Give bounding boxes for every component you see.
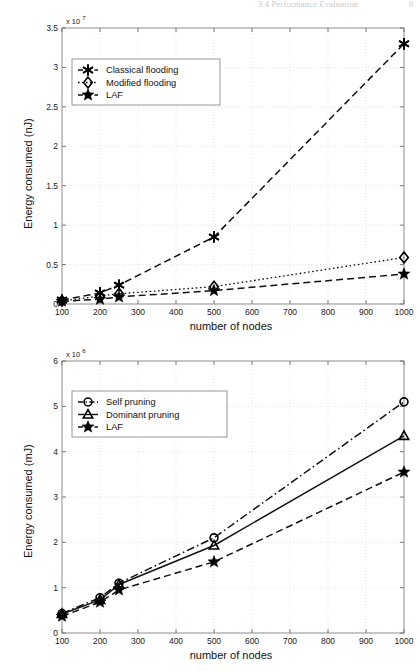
svg-text:Classical flooding: Classical flooding — [106, 65, 178, 75]
svg-text:200: 200 — [93, 307, 107, 317]
figure-energy-flooding: x 10 7 Energy consumed (nJ) number of no… — [0, 14, 420, 336]
svg-text:300: 300 — [131, 307, 145, 317]
svg-text:500: 500 — [207, 307, 221, 317]
svg-text:700: 700 — [283, 307, 297, 317]
svg-text:700: 700 — [283, 636, 297, 646]
svg-text:400: 400 — [169, 307, 183, 317]
svg-text:5: 5 — [53, 401, 58, 411]
svg-text:3: 3 — [53, 62, 58, 72]
svg-text:LAF: LAF — [106, 422, 123, 432]
svg-text:2: 2 — [53, 141, 58, 151]
svg-text:1000: 1000 — [395, 636, 414, 646]
plot-area-top: 100200300400500600700800900100000.511.52… — [0, 14, 420, 336]
svg-text:1.5: 1.5 — [46, 181, 58, 191]
svg-text:600: 600 — [245, 636, 259, 646]
svg-text:Self pruning: Self pruning — [106, 397, 156, 407]
svg-text:500: 500 — [207, 636, 221, 646]
plot-area-bottom: 10020030040050060070080090010000123456Se… — [0, 343, 420, 671]
svg-text:200: 200 — [93, 636, 107, 646]
svg-text:1: 1 — [53, 220, 58, 230]
svg-text:800: 800 — [321, 307, 335, 317]
svg-text:1000: 1000 — [395, 307, 414, 317]
svg-text:600: 600 — [245, 307, 259, 317]
svg-text:2: 2 — [53, 537, 58, 547]
figure-energy-pruning: x 10 6 Energy consumed (mJ) number of no… — [0, 343, 420, 671]
series-markers — [56, 268, 410, 306]
svg-text:1: 1 — [53, 583, 58, 593]
running-head: 3.4 Performance Evaluation — [258, 0, 358, 9]
svg-text:6: 6 — [53, 356, 58, 366]
svg-text:0.5: 0.5 — [46, 260, 58, 270]
svg-text:3.5: 3.5 — [46, 23, 58, 33]
svg-text:900: 900 — [359, 636, 373, 646]
series-markers — [56, 466, 410, 621]
svg-text:800: 800 — [321, 636, 335, 646]
svg-text:LAF: LAF — [106, 90, 123, 100]
svg-text:900: 900 — [359, 307, 373, 317]
svg-text:Modified flooding: Modified flooding — [106, 78, 176, 88]
svg-text:300: 300 — [131, 636, 145, 646]
page-header: 3.4 Performance Evaluation 6 — [0, 0, 420, 12]
svg-text:0: 0 — [53, 628, 58, 638]
svg-text:2.5: 2.5 — [46, 102, 58, 112]
svg-text:400: 400 — [169, 636, 183, 646]
svg-text:3: 3 — [53, 492, 58, 502]
page-number: 6 — [409, 0, 413, 9]
svg-text:Dominant pruning: Dominant pruning — [106, 410, 179, 420]
svg-text:4: 4 — [53, 447, 58, 457]
